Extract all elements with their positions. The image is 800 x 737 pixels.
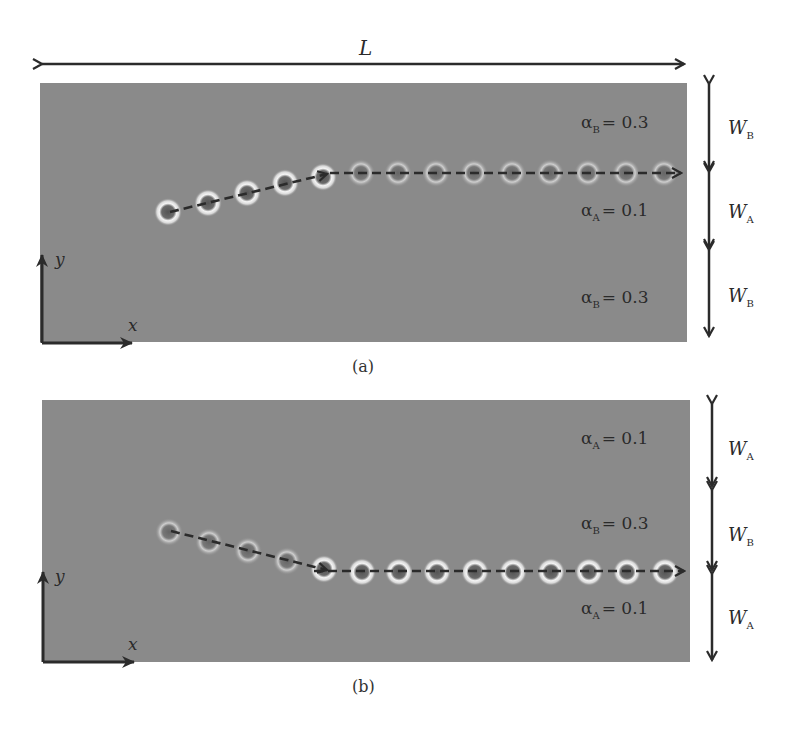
y-axis-label: y [54,566,65,586]
width-label-bottom: WA [728,607,755,631]
panel-a: αB= 0.3 αA= 0.1 αB= 0.3 y x WB WA WB (a) [40,83,755,376]
skyrmion [234,537,262,565]
region-label-top: αA= 0.1 [581,428,648,451]
x-axis-label: x [128,634,138,654]
panel-b: αA= 0.1 αB= 0.3 αA= 0.1 y x WA WB WA (b) [42,400,755,696]
region-label-bottom: αA= 0.1 [581,598,648,621]
region-label-middle: αA= 0.1 [581,200,648,223]
region-label-middle: αB= 0.3 [581,513,649,536]
figure-canvas: L αB= 0.3 αA= 0.1 αB= 0 [0,0,800,737]
width-label-middle: WB [728,524,754,548]
skyrmion [194,189,222,217]
panel-a-caption: (a) [352,357,374,376]
panel-b-width-dimensions: WA WB WA [712,404,755,660]
width-label-top: WA [728,438,755,462]
width-label-top: WB [728,117,754,141]
length-label: L [358,36,372,60]
width-label-middle: WA [728,201,755,225]
panel-a-width-dimensions: WB WA WB [709,84,755,336]
x-axis-label: x [128,315,138,335]
width-label-bottom: WB [728,285,754,309]
region-label-bottom: αB= 0.3 [581,287,649,310]
panel-b-caption: (b) [352,677,375,696]
length-dimension: L [42,36,684,64]
region-label-top: αB= 0.3 [581,112,649,135]
skyrmion [154,198,182,226]
y-axis-label: y [54,249,65,269]
skyrmion [233,179,261,207]
